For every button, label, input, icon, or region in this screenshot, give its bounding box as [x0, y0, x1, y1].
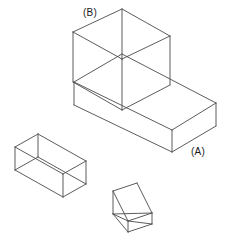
large-stepped-block: [73, 9, 216, 152]
triangular-prism: [113, 183, 152, 232]
large-block-faces: [73, 9, 216, 152]
prism-faces: [113, 183, 152, 232]
prism-bottom-face: [113, 213, 152, 232]
isometric-drawing-canvas: (B) (A): [0, 0, 229, 241]
figure-label-a: (A): [191, 146, 205, 157]
isometric-figure-svg: [0, 0, 229, 241]
small-box-faces: [15, 134, 86, 197]
small-open-box: [15, 134, 86, 197]
figure-label-b: (B): [83, 7, 97, 18]
